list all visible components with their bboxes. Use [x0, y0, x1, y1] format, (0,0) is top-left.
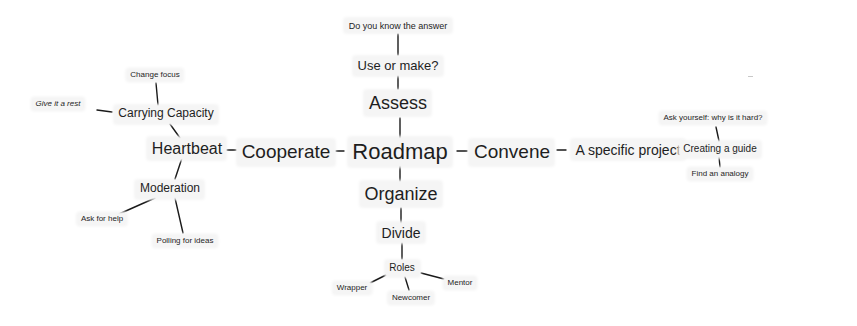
edge-guide-askyourself — [716, 127, 719, 141]
node-find-analogy: Find an analogy — [689, 168, 752, 179]
stray-mark — [748, 76, 753, 77]
node-carrying-capacity: Carrying Capacity — [115, 106, 216, 122]
node-ask-for-help: Ask for help — [78, 213, 126, 224]
edge-roles-wrapper — [370, 275, 386, 283]
node-use-or-make: Use or make? — [355, 58, 442, 75]
edge-moderation-askhelp — [119, 198, 155, 214]
node-roadmap: Roadmap — [349, 138, 450, 165]
node-mentor: Mentor — [445, 277, 476, 288]
node-roles: Roles — [386, 261, 418, 275]
edge-capacity-changefocus — [156, 83, 158, 105]
node-cooperate: Cooperate — [239, 140, 334, 164]
node-newcomer: Newcomer — [389, 292, 433, 303]
node-wrapper: Wrapper — [334, 282, 371, 293]
edge-guide-analogy — [719, 157, 720, 167]
node-give-it-a-rest: Give it a rest — [33, 98, 84, 109]
node-assess: Assess — [366, 92, 430, 115]
node-convene: Convene — [471, 140, 553, 164]
node-specific-project: A specific project — [572, 141, 683, 159]
edge-heartbeat-moderation — [175, 158, 182, 179]
edge-capacity-giverest — [97, 110, 112, 112]
edge-roles-newcomer — [405, 277, 409, 290]
node-change-focus: Change focus — [127, 69, 182, 80]
node-divide: Divide — [379, 224, 424, 242]
node-polling-for-ideas: Polling for ideas — [154, 235, 217, 246]
edge-moderation-polling — [175, 198, 183, 233]
edge-roles-mentor — [421, 273, 444, 279]
node-do-you-know-answer: Do you know the answer — [346, 20, 451, 32]
node-moderation: Moderation — [137, 181, 203, 197]
node-creating-guide: Creating a guide — [680, 142, 759, 156]
edge-heartbeat-capacity — [170, 124, 180, 138]
node-heartbeat: Heartbeat — [149, 139, 225, 159]
node-ask-yourself: Ask yourself: why is it hard? — [660, 112, 765, 123]
node-organize: Organize — [361, 183, 440, 206]
